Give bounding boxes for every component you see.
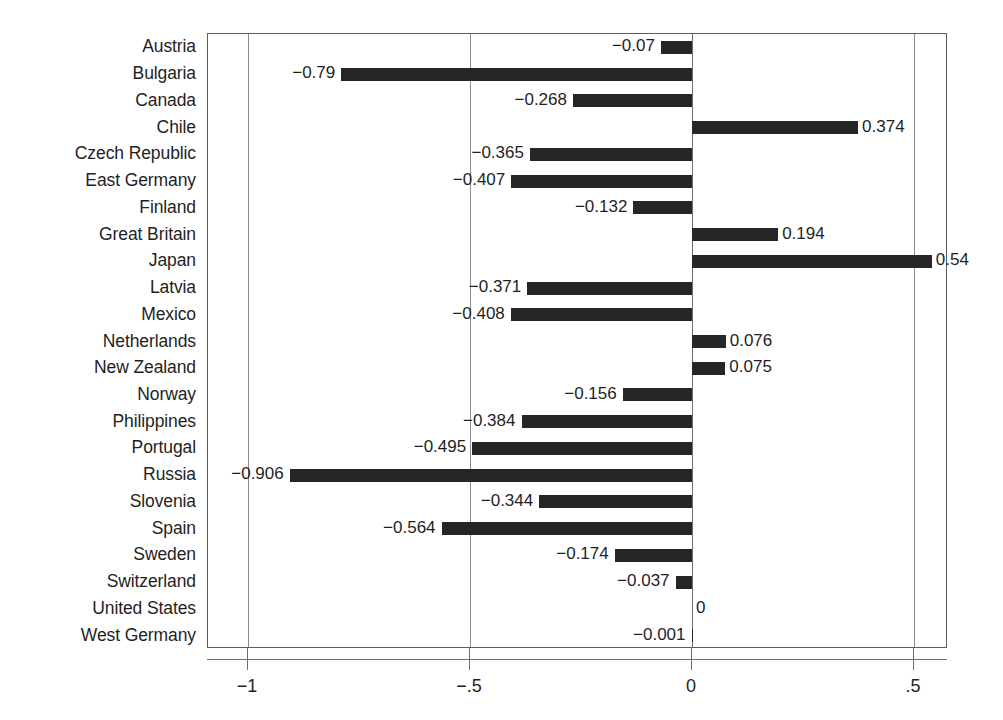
value-label: −0.408 xyxy=(0,305,505,322)
bar xyxy=(530,148,692,161)
x-tick-mark xyxy=(913,648,914,670)
x-tick-label: −1 xyxy=(237,676,258,696)
bar xyxy=(442,522,692,535)
value-label: 0.075 xyxy=(729,358,772,375)
category-label: Japan xyxy=(0,250,196,270)
value-label: −0.495 xyxy=(0,438,466,455)
bar xyxy=(692,228,778,241)
category-label: United States xyxy=(0,598,196,618)
x-tick-label: 0 xyxy=(686,676,696,696)
value-label: −0.564 xyxy=(0,519,436,536)
x-tick-mark xyxy=(691,648,692,670)
value-label: −0.07 xyxy=(0,37,655,54)
value-label: −0.371 xyxy=(0,278,521,295)
bar xyxy=(692,255,932,268)
x-tick-mark xyxy=(469,648,470,670)
bar xyxy=(522,415,692,428)
value-label: 0 xyxy=(696,599,705,616)
bar xyxy=(623,388,692,401)
bar xyxy=(633,201,692,214)
bar xyxy=(472,442,692,455)
value-label: 0.54 xyxy=(936,251,969,268)
category-label: Chile xyxy=(0,117,196,137)
category-label: Great Britain xyxy=(0,224,196,244)
bar xyxy=(692,362,725,375)
value-label: −0.384 xyxy=(0,412,516,429)
x-tick-mark xyxy=(247,648,248,670)
value-label: −0.156 xyxy=(0,385,617,402)
bar xyxy=(290,469,692,482)
value-label: −0.132 xyxy=(0,198,627,215)
value-label: −0.268 xyxy=(0,91,567,108)
bar xyxy=(527,282,692,295)
bar xyxy=(692,335,726,348)
value-label: −0.407 xyxy=(0,171,505,188)
bar xyxy=(692,121,858,134)
bar xyxy=(573,94,692,107)
value-label: 0.374 xyxy=(862,118,905,135)
bar xyxy=(661,41,692,54)
category-label: Netherlands xyxy=(0,331,196,351)
bar xyxy=(615,549,692,562)
value-label: −0.365 xyxy=(0,144,524,161)
value-label: −0.79 xyxy=(0,64,335,81)
x-axis-line xyxy=(207,659,947,660)
bar xyxy=(539,495,692,508)
x-tick-label: −.5 xyxy=(456,676,482,696)
bar xyxy=(692,629,693,642)
value-label: 0.076 xyxy=(730,332,773,349)
value-label: −0.037 xyxy=(0,572,670,589)
category-label: New Zealand xyxy=(0,357,196,377)
bar-chart-figure: AustriaBulgariaCanadaChileCzech Republic… xyxy=(0,0,1003,720)
bar xyxy=(676,576,692,589)
bar xyxy=(511,308,692,321)
value-label: 0.194 xyxy=(782,225,825,242)
bar xyxy=(341,68,692,81)
value-label: −0.344 xyxy=(0,492,533,509)
value-label: −0.001 xyxy=(0,626,686,643)
bar xyxy=(511,175,692,188)
gridline-0p5 xyxy=(914,34,915,647)
value-label: −0.906 xyxy=(0,465,284,482)
x-tick-label: .5 xyxy=(905,676,920,696)
value-label: −0.174 xyxy=(0,545,609,562)
